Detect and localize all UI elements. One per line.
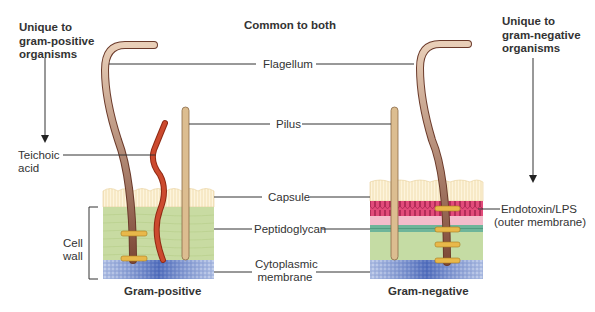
header-line: Unique to xyxy=(19,21,94,35)
common-header: Common to both xyxy=(244,19,336,33)
header-line: gram-negative xyxy=(502,29,581,43)
header-line: gram-positive xyxy=(19,35,94,49)
pilus-label: Pilus xyxy=(276,118,301,131)
label-line: membrane xyxy=(255,271,315,284)
gram-negative-caption: Gram-negative xyxy=(388,285,469,297)
cell-wall-label: Cell wall xyxy=(63,237,83,263)
header-line: organisms xyxy=(19,48,94,62)
endotoxin-label: Endotoxin/LPS (outer membrane) xyxy=(494,203,584,229)
gp-pilus xyxy=(182,107,189,260)
gram-negative-unique-header: Unique to gram-negative organisms xyxy=(502,15,581,56)
flagellum-label: Flagellum xyxy=(263,58,313,71)
peptidoglycan-label: Peptidoglycan xyxy=(254,223,326,236)
label-line: Endotoxin/LPS xyxy=(494,203,584,216)
gn-arrow-icon xyxy=(529,175,537,183)
cytoplasmic-membrane-label: Cytoplasmic membrane xyxy=(255,258,315,284)
capsule-label: Capsule xyxy=(268,191,310,204)
label-line: Cytoplasmic xyxy=(255,258,315,271)
label-line: wall xyxy=(63,250,83,263)
gram-positive-unique-header: Unique to gram-positive organisms xyxy=(19,21,94,62)
gram-positive-caption: Gram-positive xyxy=(124,285,201,297)
gp-arrow-icon xyxy=(41,135,49,143)
gn-pilus xyxy=(391,107,398,260)
label-line: acid xyxy=(18,162,60,175)
gram-negative-envelope xyxy=(370,180,483,279)
label-line: Cell xyxy=(63,237,83,250)
label-line: Teichoic xyxy=(18,149,60,162)
teichoic-acid-label: Teichoic acid xyxy=(18,149,60,175)
header-line: Unique to xyxy=(502,15,581,29)
label-line: (outer membrane) xyxy=(494,216,584,229)
header-line: organisms xyxy=(502,42,581,56)
